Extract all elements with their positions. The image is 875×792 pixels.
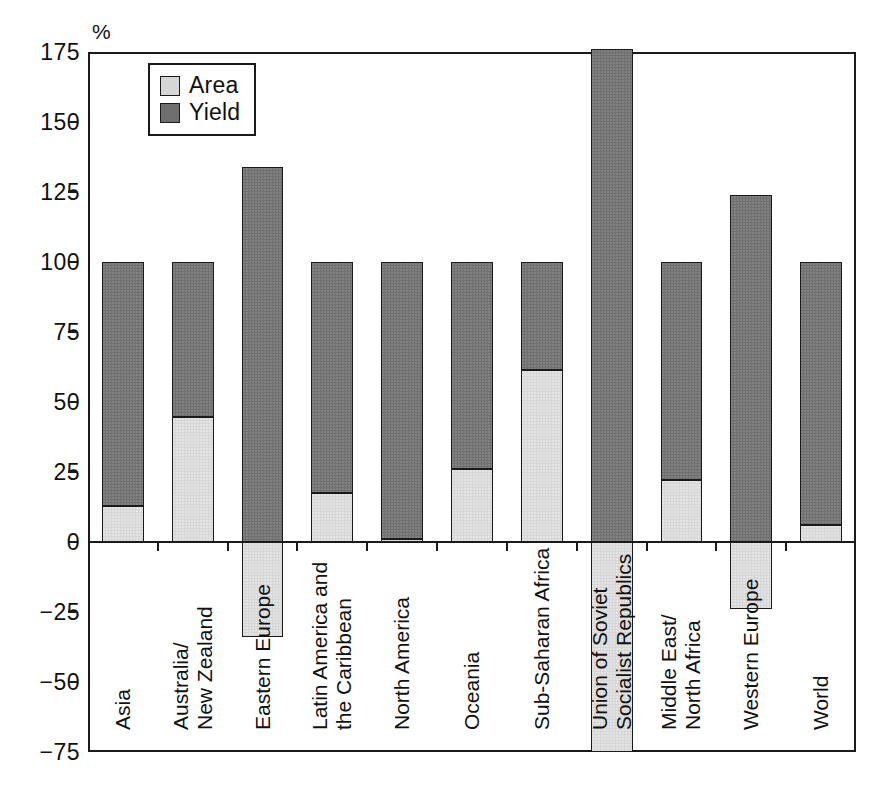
x-axis-label: Union of Soviet Socialist Republics	[588, 554, 637, 730]
bar-group[interactable]	[102, 52, 144, 752]
legend-item-area: Area	[160, 72, 240, 99]
bar-group[interactable]	[800, 52, 842, 752]
y-tick-mark	[68, 401, 77, 403]
bar-group[interactable]	[451, 52, 493, 752]
y-axis-unit-label: %	[92, 20, 111, 44]
x-axis-label: Eastern Europe	[251, 584, 275, 730]
bar-segment-area[interactable]	[311, 493, 353, 542]
y-tick-mark	[68, 471, 77, 473]
x-tick-mark	[227, 542, 229, 551]
x-tick-mark	[366, 542, 368, 551]
bar-segment-yield[interactable]	[591, 49, 633, 542]
chart-legend: Area Yield	[148, 63, 256, 136]
x-tick-mark	[157, 542, 159, 551]
x-tick-mark	[576, 542, 578, 551]
y-tick-mark	[68, 191, 77, 193]
x-axis-label: North America	[390, 597, 414, 730]
y-tick-mark	[68, 331, 77, 333]
x-axis-label: Middle East/ North Africa	[657, 614, 706, 730]
x-tick-mark	[646, 542, 648, 551]
bar-segment-yield[interactable]	[311, 262, 353, 493]
legend-swatch-yield-icon	[160, 103, 180, 123]
x-axis-label: Oceania	[460, 652, 484, 730]
legend-item-yield: Yield	[160, 99, 240, 126]
bar-segment-area[interactable]	[451, 469, 493, 542]
bar-segment-area[interactable]	[521, 370, 563, 542]
legend-swatch-area-icon	[160, 76, 180, 96]
x-tick-mark	[506, 542, 508, 551]
y-tick-label: 175	[40, 39, 80, 66]
stacked-bar-chart: % 1751501251007550250−25−50−75 AsiaAustr…	[0, 0, 875, 792]
bar-segment-area[interactable]	[661, 480, 703, 542]
bar-segment-area[interactable]	[102, 506, 144, 542]
x-tick-mark	[436, 542, 438, 551]
x-axis-label: Australia/ New Zealand	[169, 606, 218, 730]
x-tick-mark	[785, 542, 787, 551]
y-tick-mark	[68, 121, 77, 123]
x-tick-mark	[296, 542, 298, 551]
y-tick-mark	[68, 261, 77, 263]
x-axis-label: Western Europe	[739, 579, 763, 730]
bar-segment-yield[interactable]	[800, 262, 842, 525]
x-axis-label: Sub-Saharan Africa	[530, 548, 554, 730]
x-tick-mark	[715, 542, 717, 551]
bar-segment-yield[interactable]	[242, 167, 284, 542]
legend-label-yield: Yield	[189, 99, 240, 126]
x-axis-label: Asia	[111, 689, 135, 730]
legend-label-area: Area	[189, 72, 238, 99]
x-axis-label: World	[809, 676, 833, 730]
y-tick-mark	[68, 611, 77, 613]
bar-segment-yield[interactable]	[172, 262, 214, 417]
y-tick-label: −75	[39, 739, 80, 766]
bar-segment-area[interactable]	[800, 525, 842, 542]
bar-segment-yield[interactable]	[521, 262, 563, 370]
bar-segment-yield[interactable]	[102, 262, 144, 506]
bar-segment-yield[interactable]	[661, 262, 703, 480]
bar-segment-area[interactable]	[381, 539, 423, 542]
y-axis: 1751501251007550250−25−50−75	[10, 0, 80, 792]
bar-segment-yield[interactable]	[381, 262, 423, 539]
bar-segment-yield[interactable]	[730, 195, 772, 542]
bar-segment-area[interactable]	[172, 417, 214, 542]
bar-segment-yield[interactable]	[451, 262, 493, 469]
x-axis-label: Latin America and the Caribbean	[308, 562, 357, 730]
y-tick-mark	[68, 541, 77, 543]
y-tick-mark	[68, 681, 77, 683]
